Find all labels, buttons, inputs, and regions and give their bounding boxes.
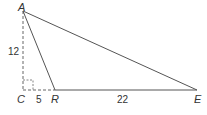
length-label-cr: 5 bbox=[36, 94, 42, 105]
length-label-re: 22 bbox=[117, 94, 129, 105]
vertex-label-e: E bbox=[194, 93, 202, 105]
triangle-diagram: A C R E 12 5 22 bbox=[0, 0, 207, 115]
vertex-label-a: A bbox=[17, 1, 25, 13]
length-label-ac: 12 bbox=[8, 46, 20, 57]
vertex-label-r: R bbox=[51, 93, 59, 105]
vertex-label-c: C bbox=[17, 93, 25, 105]
right-angle-marker bbox=[23, 80, 33, 90]
segment-ae bbox=[23, 11, 197, 90]
